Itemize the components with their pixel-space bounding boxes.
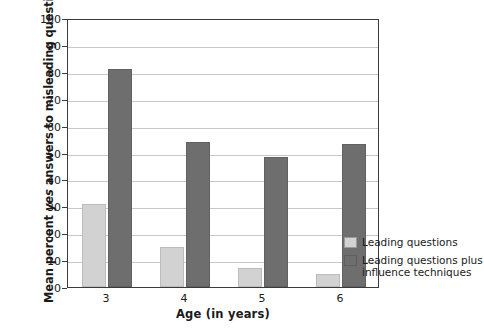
legend-item-2: Leading questions plus influence techniq… (344, 254, 484, 279)
bar-5-series-2 (264, 157, 288, 287)
y-tick-mark (62, 234, 67, 235)
y-tick-label: 10 (31, 255, 61, 268)
y-tick-mark (62, 180, 67, 181)
y-tick-mark (62, 288, 67, 289)
y-tick-label: 50 (31, 147, 61, 160)
legend-label: Leading questions (362, 236, 458, 249)
bar-chart-figure: Mean percent yes answers to misleading q… (0, 0, 484, 328)
bar-4-series-2 (186, 142, 210, 287)
bar-3-series-2 (108, 69, 132, 287)
y-tick-label: 90 (31, 39, 61, 52)
bar-4-series-1 (160, 247, 184, 287)
legend-swatch-icon (344, 237, 357, 248)
x-tick-label: 6 (320, 292, 360, 305)
legend-item-1: Leading questions (344, 236, 484, 249)
y-tick-mark (62, 100, 67, 101)
legend-swatch-icon (344, 255, 357, 266)
y-tick-label: 60 (31, 120, 61, 133)
y-tick-label: 40 (31, 174, 61, 187)
bar-5-series-1 (238, 268, 262, 287)
legend-label: Leading questions plus influence techniq… (362, 254, 483, 279)
bar-6-series-1 (316, 274, 340, 287)
gridline (68, 47, 378, 48)
x-tick-label: 4 (164, 292, 204, 305)
y-tick-mark (62, 261, 67, 262)
y-tick-label: 0 (31, 282, 61, 295)
chart-legend: Leading questionsLeading questions plus … (344, 236, 484, 284)
y-tick-label: 20 (31, 228, 61, 241)
y-tick-mark (62, 19, 67, 20)
x-tick-label: 5 (242, 292, 282, 305)
plot-inner (68, 20, 378, 287)
y-tick-label: 30 (31, 201, 61, 214)
bar-3-series-1 (82, 204, 106, 287)
y-tick-mark (62, 127, 67, 128)
x-axis-title: Age (in years) (67, 307, 379, 321)
y-tick-mark (62, 207, 67, 208)
y-tick-label: 80 (31, 66, 61, 79)
x-tick-label: 3 (86, 292, 126, 305)
y-tick-label: 100 (31, 13, 61, 26)
y-tick-mark (62, 46, 67, 47)
y-tick-mark (62, 73, 67, 74)
y-tick-label: 70 (31, 93, 61, 106)
y-tick-mark (62, 154, 67, 155)
plot-area (67, 19, 379, 288)
